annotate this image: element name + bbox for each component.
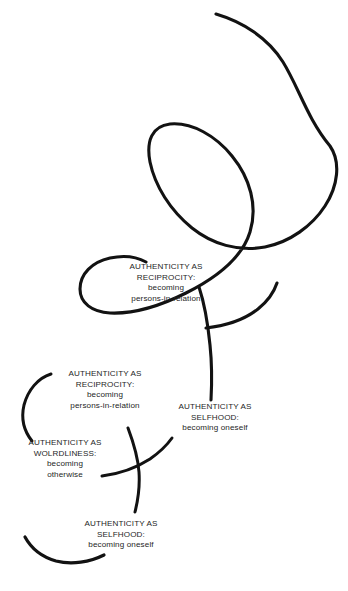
label-line-2: SELFHOOD: [152,413,278,424]
label-line-1: AUTHENTICITY AS [152,402,278,413]
label-authenticity-as-reciprocity-lower: AUTHENTICITY AS RECIPROCITY: becoming pe… [42,369,168,411]
label-line-2: SELFHOOD: [58,530,184,541]
label-line-1: AUTHENTICITY AS [42,369,168,380]
label-line-3: becoming [103,283,229,294]
label-line-1: AUTHENTICITY AS [58,519,184,530]
label-line-2: WOLRDLINESS: [6,449,124,460]
label-line-1: AUTHENTICITY AS [103,262,229,273]
label-line-1: AUTHENTICITY AS [6,438,124,449]
label-line-3: becoming [6,459,124,470]
label-line-4: persons-in-relation [42,401,168,412]
label-authenticity-as-reciprocity-upper: AUTHENTICITY AS RECIPROCITY: becoming pe… [103,262,229,304]
label-line-2: RECIPROCITY: [42,380,168,391]
label-authenticity-as-worldliness: AUTHENTICITY AS WOLRDLINESS: becoming ot… [6,438,124,480]
authenticity-spiral-figure: AUTHENTICITY AS RECIPROCITY: becoming pe… [0,0,348,591]
label-line-3: becoming oneself [58,540,184,551]
label-line-4: otherwise [6,470,124,481]
label-line-3: becoming oneself [152,423,278,434]
label-authenticity-as-selfhood-right: AUTHENTICITY AS SELFHOOD: becoming onese… [152,402,278,434]
label-line-2: RECIPROCITY: [103,273,229,284]
label-authenticity-as-selfhood-bottom: AUTHENTICITY AS SELFHOOD: becoming onese… [58,519,184,551]
label-line-3: becoming [42,390,168,401]
label-line-4: persons-in-relation [103,294,229,305]
